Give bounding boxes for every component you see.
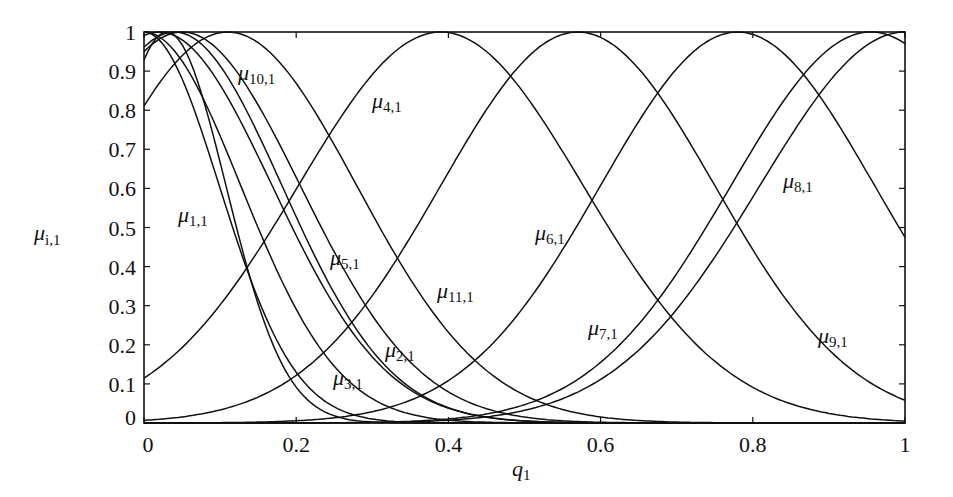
x-tick-label: 0.6: [587, 432, 615, 457]
curve-label: μ5,1: [329, 245, 360, 272]
curve-label: μ10,1: [237, 60, 275, 87]
curve-label: μ1,1: [177, 202, 208, 229]
y-tick-label: 1: [125, 20, 136, 45]
curve-label: μ8,1: [782, 168, 813, 195]
x-axis-label: q1: [512, 456, 531, 483]
curves-group: [144, 32, 905, 423]
y-tick-label: 0.5: [109, 216, 137, 241]
y-tick-label: 0: [125, 405, 136, 430]
curve-label: μ7,1: [587, 315, 618, 342]
y-tick-label: 0.6: [109, 176, 137, 201]
y-tick-label: 0.1: [109, 372, 137, 397]
membership-function-chart: 00.20.40.60.81 00.10.20.30.40.50.60.70.8…: [0, 0, 953, 497]
curve-label: μ11,1: [436, 278, 474, 305]
y-axis-label: μi,1: [33, 220, 60, 248]
y-tick-label: 0.9: [109, 59, 137, 84]
x-tick-label: 0.4: [435, 432, 463, 457]
curve-label: μ4,1: [371, 88, 402, 115]
y-tick-label: 0.7: [109, 137, 137, 162]
curve-label: μ2,1: [384, 337, 415, 364]
curve-label: μ9,1: [817, 323, 848, 350]
curve-label: μ3,1: [332, 365, 363, 392]
y-tick-label: 0.2: [109, 333, 137, 358]
y-tick-label: 0.8: [109, 98, 137, 123]
x-tick-label: 0: [143, 432, 154, 457]
x-tick-label: 0.2: [282, 432, 310, 457]
y-tick-label: 0.3: [109, 294, 137, 319]
x-tick-label: 1: [900, 432, 911, 457]
y-tick-label: 0.4: [109, 255, 137, 280]
curve-label: μ6,1: [534, 220, 565, 247]
x-tick-label: 0.8: [739, 432, 767, 457]
